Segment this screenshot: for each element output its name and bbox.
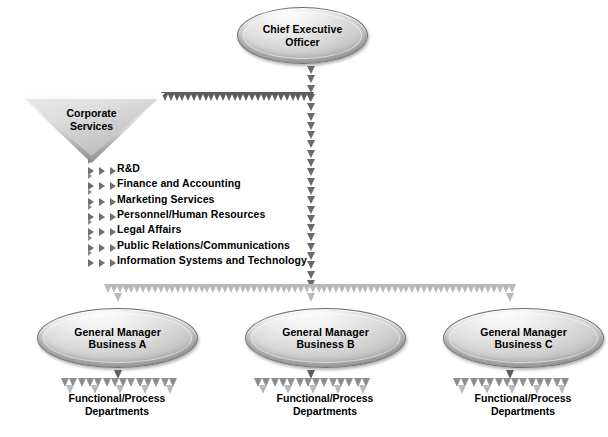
triangle-down-icon xyxy=(307,140,315,148)
gm-a-line2: Business A xyxy=(89,338,147,350)
triangle-right-icon xyxy=(110,259,116,267)
triangle-right-icon xyxy=(110,167,116,175)
gm-b-line1: General Manager xyxy=(282,326,369,338)
triangle-right-icon xyxy=(99,198,105,206)
triangle-right-icon xyxy=(110,244,116,252)
triangle-down-icon xyxy=(307,131,315,139)
ceo-line2: Officer xyxy=(285,36,320,48)
triangle-down-icon xyxy=(307,206,315,214)
triangle-right-icon xyxy=(110,228,116,236)
triangle-right-icon-small xyxy=(88,219,92,225)
triangle-down-icon xyxy=(307,159,315,167)
triangle-down-icon xyxy=(307,75,315,83)
triangle-right-icon xyxy=(110,182,116,190)
dept-b-line2: Departments xyxy=(293,405,357,417)
ceo-line1: Chief Executive xyxy=(263,23,343,35)
corporate-function-item[interactable]: R&D xyxy=(117,162,140,174)
triangle-down-icon xyxy=(307,168,315,176)
gm-c-line2: Business C xyxy=(494,338,552,350)
triangle-down-icon xyxy=(307,233,315,241)
triangle-right-icon xyxy=(99,259,105,267)
triangle-down-icon xyxy=(306,92,314,101)
corporate-function-item[interactable]: Public Relations/Communications xyxy=(117,239,290,251)
gm-c-line1: General Manager xyxy=(480,326,567,338)
triangle-right-icon-small xyxy=(88,158,92,164)
dept-a-line2: Departments xyxy=(85,405,149,417)
gm-b-line2: Business B xyxy=(296,338,354,350)
node-general-manager-business-a[interactable]: General Manager Business A xyxy=(37,308,198,368)
gm-a-line1: General Manager xyxy=(74,326,161,338)
connector-corporate-to-ceo xyxy=(161,92,311,103)
triangle-down-icon xyxy=(307,66,315,74)
dept-c-line1: Functional/Process xyxy=(475,392,572,404)
connector-band-to-gm-a xyxy=(114,293,123,304)
triangle-right-icon-small xyxy=(88,189,92,195)
triangle-right-icon xyxy=(110,198,116,206)
triangle-down-icon xyxy=(307,224,315,232)
node-label-gm-c: General Manager Business C xyxy=(480,326,567,351)
node-chief-executive-officer[interactable]: Chief Executive Officer xyxy=(237,7,368,64)
triangle-down-icon xyxy=(307,293,315,302)
triangle-down-icon xyxy=(506,293,514,302)
triangle-down-icon xyxy=(307,252,315,260)
node-label-ceo: Chief Executive Officer xyxy=(263,23,343,48)
label-departments-c: Functional/Process Departments xyxy=(438,392,608,418)
triangle-right-icon-small xyxy=(88,204,92,210)
triangle-right-icon-small xyxy=(88,235,92,241)
triangle-right-icon-small xyxy=(88,173,92,179)
node-corporate-services[interactable]: Corporate Services xyxy=(18,93,165,163)
triangle-right-icon xyxy=(99,182,105,190)
triangle-right-icon-small xyxy=(88,250,92,256)
triangle-right-icon xyxy=(99,228,105,236)
label-departments-b: Functional/Process Departments xyxy=(240,392,410,418)
dept-a-line1: Functional/Process xyxy=(69,392,166,404)
triangle-down-icon xyxy=(307,187,315,195)
corporate-function-item[interactable]: Personnel/Human Resources xyxy=(117,208,265,220)
label-departments-a: Functional/Process Departments xyxy=(32,392,202,418)
triangle-down-icon xyxy=(307,196,315,204)
corporate-services-line1: Corporate xyxy=(66,107,116,119)
triangle-down-icon xyxy=(508,284,516,293)
triangle-right-icon xyxy=(99,167,105,175)
corporate-function-item[interactable]: Legal Affairs xyxy=(117,223,182,235)
corporate-services-line2: Services xyxy=(70,120,113,132)
triangle-down-icon xyxy=(307,122,315,130)
node-general-manager-business-c[interactable]: General Manager Business C xyxy=(443,308,604,368)
triangle-down-icon xyxy=(307,113,315,121)
corporate-function-item[interactable]: Finance and Accounting xyxy=(117,177,241,189)
triangle-right-icon xyxy=(110,213,116,221)
node-label-gm-a: General Manager Business A xyxy=(74,326,161,351)
triangle-down-icon xyxy=(307,178,315,186)
dept-b-line1: Functional/Process xyxy=(277,392,374,404)
triangle-down-icon xyxy=(307,150,315,158)
triangle-right-icon xyxy=(99,244,105,252)
connector-band-to-gm-c xyxy=(506,293,515,304)
node-label-gm-b: General Manager Business B xyxy=(282,326,369,351)
triangle-down-icon xyxy=(114,293,122,302)
triangle-down-icon xyxy=(307,261,315,269)
triangle-down-icon xyxy=(307,215,315,223)
triangle-right-icon xyxy=(99,213,105,221)
triangle-down-icon xyxy=(307,103,315,111)
corporate-function-item[interactable]: Information Systems and Technology xyxy=(117,254,307,266)
node-label-corporate-services: Corporate Services xyxy=(18,107,165,132)
node-general-manager-business-b[interactable]: General Manager Business B xyxy=(245,308,406,368)
triangle-right-icon xyxy=(88,259,94,267)
triangle-down-icon xyxy=(307,271,315,279)
dept-c-line2: Departments xyxy=(491,405,555,417)
corporate-function-item[interactable]: Marketing Services xyxy=(117,193,215,205)
triangle-down-icon xyxy=(307,243,315,251)
connector-band-to-gm-b xyxy=(307,293,316,304)
